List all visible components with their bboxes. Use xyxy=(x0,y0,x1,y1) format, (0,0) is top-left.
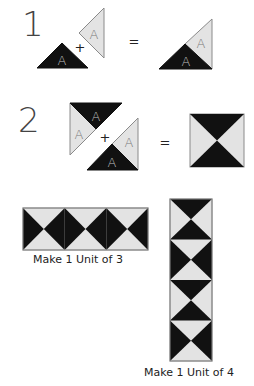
unit-of-4-column xyxy=(170,199,212,361)
step-1: 1 A A + = A A xyxy=(22,4,212,69)
piece-letter: A xyxy=(92,109,101,124)
step-1-number: 1 xyxy=(22,4,44,44)
step-2-result-hourglass xyxy=(190,114,244,167)
piece-letter: A xyxy=(182,54,191,69)
step-1-result-half-square-triangle: A A xyxy=(159,19,212,69)
unit-of-4-label: Make 1 Unit of 4 xyxy=(144,366,234,379)
piece-letter: A xyxy=(90,27,99,42)
piece-letter: A xyxy=(58,53,67,68)
piece-letter: A xyxy=(108,155,117,170)
piece-letter: A xyxy=(197,36,206,51)
equals-sign: = xyxy=(129,34,140,49)
unit-of-3-label: Make 1 Unit of 3 xyxy=(33,253,123,266)
plus-sign: + xyxy=(75,40,86,55)
step-2: 2 A A + A A = xyxy=(18,100,244,170)
plus-sign: + xyxy=(100,130,111,145)
step-2-number: 2 xyxy=(18,100,40,140)
piece-letter: A xyxy=(75,127,84,142)
diagram-canvas: 1 A A + = A A 2 A A + A xyxy=(0,0,254,386)
unit-of-3-strip xyxy=(23,208,148,250)
equals-sign: = xyxy=(160,135,171,150)
piece-letter: A xyxy=(125,135,134,150)
